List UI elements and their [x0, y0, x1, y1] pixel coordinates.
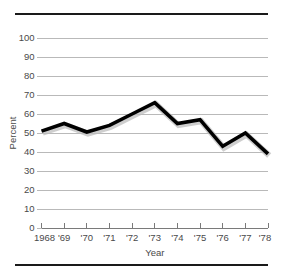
- x-axis-tick-marks: [42, 223, 269, 228]
- bottom-rule: [15, 264, 268, 266]
- series-line-path: [42, 103, 269, 154]
- x-tick-label-72: '72: [126, 232, 138, 243]
- y-tick-label-20: 20: [24, 184, 35, 195]
- y-axis-title: Percent: [7, 116, 18, 149]
- x-axis-title: Year: [145, 247, 164, 258]
- ytick-stubs-group: [37, 38, 42, 228]
- x-tick-label-77: '77: [239, 232, 251, 243]
- x-tick-label-71: '71: [103, 232, 115, 243]
- x-tick-label-76: '76: [217, 232, 229, 243]
- y-tick-label-60: 60: [24, 108, 35, 119]
- x-tick-label-1968: 1968: [34, 232, 55, 243]
- plot-area-wrapper: 0102030405060708090100 1968'69'70'71'72'…: [0, 20, 283, 260]
- y-tick-label-90: 90: [24, 51, 35, 62]
- y-tick-label-50: 50: [24, 127, 35, 138]
- y-tick-label-70: 70: [24, 89, 35, 100]
- top-rule: [15, 13, 268, 15]
- x-tick-label-73: '73: [149, 232, 161, 243]
- y-axis-tick-labels: 0102030405060708090100: [19, 32, 35, 233]
- x-tick-label-74: '74: [171, 232, 183, 243]
- x-tick-label-78: '78: [259, 232, 271, 243]
- y-tick-label-10: 10: [24, 203, 35, 214]
- x-tick-label-70: '70: [81, 232, 93, 243]
- gridlines-group: [42, 38, 269, 209]
- chart-figure: 0102030405060708090100 1968'69'70'71'72'…: [0, 0, 283, 274]
- y-tick-label-40: 40: [24, 146, 35, 157]
- y-tick-label-100: 100: [19, 32, 35, 43]
- x-tick-label-69: '69: [58, 232, 70, 243]
- x-tick-label-75: '75: [194, 232, 206, 243]
- y-tick-label-80: 80: [24, 70, 35, 81]
- y-tick-label-30: 30: [24, 165, 35, 176]
- x-axis-tick-labels: 1968'69'70'71'72'73'74'75'76'77'78: [34, 232, 271, 243]
- line-chart-svg: 0102030405060708090100 1968'69'70'71'72'…: [0, 20, 283, 260]
